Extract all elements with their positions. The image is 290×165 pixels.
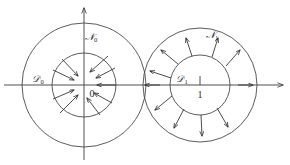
left-flow-arrow (60, 95, 78, 113)
left-flow-arrow (62, 59, 78, 76)
right-flow-arrow (226, 50, 240, 66)
right-flow-arrow (150, 71, 171, 78)
left-flow-arrow (96, 68, 115, 78)
right-flow-vectors (150, 38, 240, 136)
right-domain-label: 𝒟1 (176, 74, 187, 85)
phase-plane-diagram: 𝒟0 𝒩0 0 (0, 0, 290, 165)
right-flow-arrow (217, 108, 228, 127)
left-flow-arrow (87, 98, 100, 115)
right-annulus-label: 𝒩1 (206, 30, 218, 41)
left-flow-arrow (90, 56, 108, 72)
right-flow-arrow (201, 115, 202, 136)
left-annulus-label: 𝒩0 (85, 32, 97, 43)
right-flow-arrow (161, 50, 178, 64)
right-flow-arrow (186, 38, 192, 56)
origin-label: 0 (90, 88, 95, 99)
left-domain-label: 𝒟0 (32, 74, 43, 85)
left-flow-arrow (53, 90, 74, 99)
unit-tick-label: 1 (198, 89, 203, 100)
figure-container: 𝒟0 𝒩0 0 (0, 0, 290, 165)
left-flow-arrow (53, 70, 74, 80)
axes-group (4, 8, 283, 160)
left-flow-vectors (53, 56, 116, 115)
left-flow-arrow (94, 93, 112, 103)
right-flow-arrow (155, 96, 172, 110)
right-flow-arrow (174, 109, 184, 128)
